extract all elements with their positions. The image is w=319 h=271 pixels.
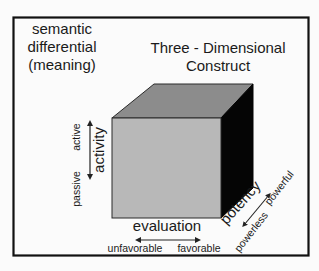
- left-title: semantic differential (meaning): [28, 20, 97, 73]
- activity-pole-active: active: [70, 123, 82, 151]
- left-title-line-1: semantic: [32, 20, 93, 37]
- evaluation-pole-favorable: favorable: [177, 242, 220, 254]
- evaluation-label: evaluation: [133, 217, 201, 234]
- left-title-line-2: differential: [28, 38, 97, 55]
- evaluation-pole-unfavorable: unfavorable: [108, 242, 163, 254]
- right-title-line-1: Three - Dimensional: [150, 39, 285, 56]
- left-title-line-3: (meaning): [28, 56, 96, 73]
- cube-front-face: [112, 118, 221, 218]
- activity-pole-passive: passive: [70, 171, 82, 207]
- activity-label: activity: [90, 127, 107, 173]
- diagram-canvas: semantic differential (meaning) Three - …: [0, 0, 319, 271]
- semantic-differential-diagram: semantic differential (meaning) Three - …: [0, 0, 319, 271]
- right-title-line-2: Construct: [186, 57, 251, 74]
